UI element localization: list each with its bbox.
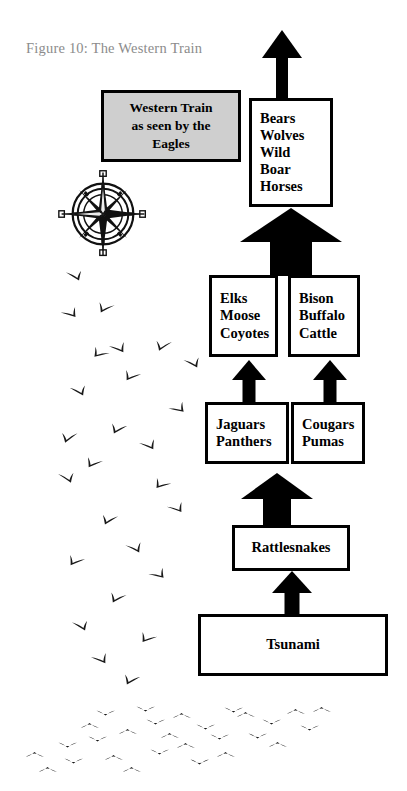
bird-silhouette (124, 538, 151, 564)
node-cougars: Cougars Pumas (291, 402, 365, 464)
bird-silhouette (70, 616, 95, 641)
node-line: Buffalo (299, 307, 345, 324)
bird-silhouette (182, 353, 208, 379)
bird-silhouette (115, 365, 143, 392)
node-line: Jaguars (216, 416, 265, 433)
gull-silhouette (210, 727, 230, 745)
node-tsunami: Tsunami (198, 614, 388, 676)
bird-silhouette (102, 588, 128, 614)
bird-silhouette (59, 301, 88, 329)
bird-silhouette (149, 337, 174, 361)
gull-silhouette (96, 703, 116, 721)
node-line: Tsunami (266, 636, 319, 653)
gull-silhouette (312, 700, 332, 718)
bird-silhouette (89, 648, 117, 675)
node-jaguars: Jaguars Panthers (205, 402, 289, 464)
gull-silhouette (160, 726, 180, 744)
bird-silhouette (94, 510, 119, 535)
gull-silhouette (268, 735, 288, 753)
title-box: Western Train as seen by the Eagles (101, 90, 241, 162)
gull-silhouette (64, 751, 84, 769)
bird-silhouette (145, 472, 174, 500)
gull-silhouette (216, 745, 236, 763)
bird-silhouette (55, 429, 79, 452)
node-line: Moose (220, 307, 260, 324)
figure-canvas: Figure 10: The Western Train Western Tra… (0, 0, 407, 791)
node-line: Bison (299, 290, 334, 307)
bird-silhouette (166, 396, 196, 425)
node-line: Panthers (216, 433, 272, 450)
node-bison: Bison Buffalo Cattle (288, 275, 360, 357)
gull-silhouette (190, 752, 210, 770)
node-line: Cougars (302, 416, 354, 433)
gull-silhouette (122, 760, 142, 778)
node-line: Wild (260, 144, 290, 161)
gull-silhouette (104, 748, 124, 766)
node-top-predators: Bears Wolves Wild Boar Horses (249, 98, 333, 207)
arrow-rattlesnakes-to-cats (241, 473, 313, 527)
arrow-top-exit (262, 30, 302, 100)
arrow-tsunami-to-rattlesnakes (272, 571, 312, 615)
bird-silhouette (146, 562, 175, 591)
bird-silhouette (59, 550, 87, 577)
bird-silhouette (77, 452, 104, 479)
node-line: Horses (260, 178, 303, 195)
title-line-1: Western Train (129, 99, 212, 117)
arrow-merge-to-top (240, 208, 342, 276)
node-line: Rattlesnakes (252, 539, 331, 556)
gull-silhouette (136, 699, 156, 717)
bird-silhouette (57, 469, 82, 493)
node-line: Pumas (302, 433, 344, 450)
node-line: Elks (220, 290, 247, 307)
node-line: Coyotes (220, 325, 269, 342)
title-line-2: as seen by the (131, 117, 210, 135)
bird-silhouette (103, 419, 129, 444)
node-rattlesnakes: Rattlesnakes (232, 525, 350, 571)
bird-silhouette (131, 627, 159, 655)
gull-silhouette (224, 700, 244, 718)
figure-caption: Figure 10: The Western Train (26, 40, 202, 57)
arrow-jaguars-to-elks (232, 360, 266, 402)
gull-silhouette (248, 726, 268, 744)
bird-silhouette (137, 434, 164, 461)
gull-silhouette (150, 742, 170, 760)
gull-silhouette (118, 722, 138, 740)
bird-silhouette (165, 497, 193, 525)
gull-silhouette (172, 706, 192, 724)
bird-silhouette (64, 266, 89, 291)
arrow-cougars-to-bison (313, 360, 347, 402)
compass-rose-icon (57, 168, 149, 260)
title-line-3: Eagles (152, 135, 190, 153)
node-line: Boar (260, 161, 291, 178)
node-elks: Elks Moose Coyotes (209, 275, 278, 357)
bird-silhouette (90, 298, 117, 324)
node-line: Cattle (299, 325, 337, 342)
gull-silhouette (300, 718, 320, 736)
bird-silhouette (68, 381, 94, 406)
node-line: Wolves (260, 127, 304, 144)
node-line: Bears (260, 110, 295, 127)
bird-silhouette (116, 670, 142, 695)
gull-silhouette (38, 760, 58, 778)
